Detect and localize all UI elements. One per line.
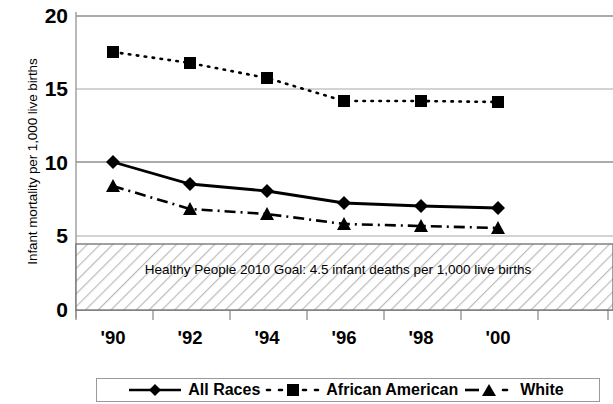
series-african-american xyxy=(107,46,504,108)
legend-label-african-american: African American xyxy=(326,381,458,399)
x-tick-2000: '00 xyxy=(468,327,528,349)
x-tick-1992: '92 xyxy=(160,327,220,349)
x-tick-1998: '98 xyxy=(391,327,451,349)
series-all-races xyxy=(106,155,505,215)
x-tick-1996: '96 xyxy=(314,327,374,349)
legend-swatch-white xyxy=(463,382,515,398)
legend-entry-all-races: All Races xyxy=(127,381,265,399)
x-tick-1990: '90 xyxy=(83,327,143,349)
legend-swatch-african-american xyxy=(265,382,321,398)
legend-entry-white: White xyxy=(463,381,569,399)
square-marker-icon xyxy=(287,384,299,396)
healthy-people-goal-band xyxy=(76,244,613,310)
chart-legend: All Races African American White xyxy=(96,378,600,402)
diamond-marker-icon xyxy=(149,384,161,396)
legend-entry-african-american: African American xyxy=(265,381,463,399)
legend-label-all-races: All Races xyxy=(188,381,260,399)
legend-label-white: White xyxy=(520,381,564,399)
goal-band-label: Healthy People 2010 Goal: 4.5 infant dea… xyxy=(78,262,598,277)
infant-mortality-chart: Infant mortality per 1,000 live births 2… xyxy=(0,0,613,404)
triangle-marker-icon xyxy=(482,384,496,396)
legend-swatch-all-races xyxy=(127,382,183,398)
x-axis-ticks xyxy=(76,310,608,320)
x-tick-1994: '94 xyxy=(237,327,297,349)
